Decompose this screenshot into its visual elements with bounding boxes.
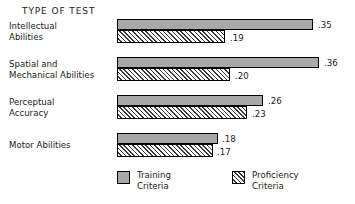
bar-training-motor-abilities [117,133,218,144]
value-label-training-motor-abilities: .18 [222,134,236,145]
value-label-proficiency-spatial-mechanical-abilities: .20 [235,71,249,82]
value-label-training-intellectual-abilities: .35 [318,20,332,31]
legend-item-training-criteria: Training Criteria [117,170,171,191]
legend-swatch-proficiency-icon [232,171,245,184]
bar-training-perceptual-accuracy [117,95,263,106]
bar-proficiency-motor-abilities [117,144,213,157]
legend-label-training-criteria: Training Criteria [137,170,171,191]
legend-label-line: Proficiency [252,170,299,181]
legend-item-proficiency-criteria: Proficiency Criteria [232,170,299,191]
bar-proficiency-spatial-mechanical-abilities [117,68,230,81]
legend-swatch-training-icon [117,171,130,184]
plot-area: .35 .19 .36 .20 .26 .23 .18 .17 [0,0,355,165]
legend-label-line: Criteria [252,181,299,192]
bar-training-spatial-mechanical-abilities [117,57,319,68]
value-label-proficiency-perceptual-accuracy: .23 [252,109,266,120]
value-label-training-perceptual-accuracy: .26 [268,96,282,107]
value-label-proficiency-intellectual-abilities: .19 [230,33,244,44]
bar-proficiency-intellectual-abilities [117,30,225,43]
chart-figure: TYPE OF TEST Intellectual Abilities Spat… [0,0,355,204]
value-label-proficiency-motor-abilities: .17 [217,147,231,158]
legend-label-proficiency-criteria: Proficiency Criteria [252,170,299,191]
value-label-training-spatial-mechanical-abilities: .36 [324,58,338,69]
chart-legend: Training Criteria Proficiency Criteria [0,168,355,202]
bar-training-intellectual-abilities [117,19,313,30]
bar-proficiency-perceptual-accuracy [117,106,247,119]
legend-label-line: Training [137,170,171,181]
legend-label-line: Criteria [137,181,171,192]
